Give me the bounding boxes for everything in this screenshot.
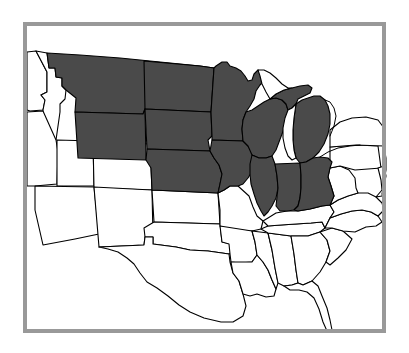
state-north-dakota bbox=[144, 61, 214, 112]
state-new-mexico bbox=[94, 187, 153, 247]
state-arizona bbox=[35, 186, 99, 245]
state-indiana bbox=[275, 163, 301, 211]
map-figure bbox=[0, 0, 409, 353]
state-kansas bbox=[152, 190, 220, 224]
us-map-svg bbox=[0, 0, 409, 353]
state-pennsylvania bbox=[330, 145, 381, 170]
state-nebraska bbox=[146, 149, 222, 193]
state-south-dakota bbox=[145, 109, 212, 151]
state-wyoming bbox=[75, 109, 146, 160]
